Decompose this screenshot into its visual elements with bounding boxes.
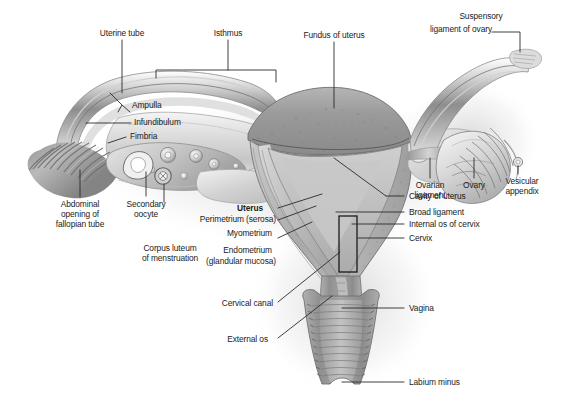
label-suspensory-ligament-line2: ligament of ovary — [430, 24, 492, 34]
label-cavity-of-uterus: Cavity of uterus — [409, 191, 466, 201]
label-cervical-canal: Cervical canal — [222, 298, 273, 308]
label-perimetrium: Perimetrium (serosa) — [200, 214, 276, 224]
anatomical-figure: Uterine tube Isthmus Fundus of uterus Su… — [0, 0, 563, 401]
label-abdominal-opening-line3: fallopian tube — [56, 219, 104, 229]
label-external-os: External os — [227, 334, 268, 344]
label-abdominal-opening-line1: Abdominal — [61, 199, 100, 209]
label-ovary: Ovary — [463, 180, 485, 190]
label-secondary-oocyte-line2: oocyte — [134, 209, 158, 219]
label-corpus-luteum-line1: Corpus luteum — [143, 243, 196, 253]
label-vesicular-appendix-line2: appendix — [505, 186, 538, 196]
label-internal-os-of-cervix: Internal os of cervix — [409, 219, 480, 229]
label-infundibulum: Infundibulum — [134, 117, 181, 127]
label-endometrium-line1: Endometrium — [223, 245, 272, 255]
label-labium-minus: Labium minus — [409, 377, 460, 387]
label-endometrium-line2: (glandular mucosa) — [206, 256, 276, 266]
label-vesicular-appendix-line1: Vesicular — [505, 176, 538, 186]
label-myometrium: Myometrium — [227, 228, 272, 238]
label-fimbria: Fimbria — [130, 131, 157, 141]
label-layer: Uterine tube Isthmus Fundus of uterus Su… — [0, 0, 563, 401]
label-vagina: Vagina — [409, 303, 434, 313]
label-broad-ligament: Broad ligament — [409, 207, 464, 217]
label-cervix: Cervix — [409, 233, 432, 243]
label-uterine-tube: Uterine tube — [100, 28, 144, 38]
label-ampulla: Ampulla — [132, 100, 162, 110]
label-fundus-of-uterus: Fundus of uterus — [303, 30, 364, 40]
label-ovarian-ligament-line1: Ovarian — [416, 180, 445, 190]
label-secondary-oocyte-line1: Secondary — [126, 199, 165, 209]
label-corpus-luteum-line2: of menstruation — [142, 253, 198, 263]
label-uterus-heading: Uterus — [237, 203, 263, 213]
label-abdominal-opening-line2: opening of — [61, 209, 99, 219]
label-isthmus: Isthmus — [214, 28, 243, 38]
label-suspensory-ligament-line1: Suspensory — [459, 11, 502, 21]
